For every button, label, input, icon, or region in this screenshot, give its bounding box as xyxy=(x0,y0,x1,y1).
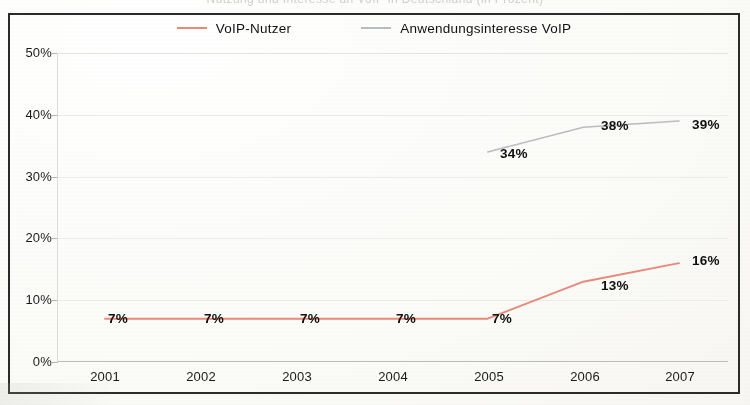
data-label-voip-2005: 7% xyxy=(492,311,512,326)
series-layer xyxy=(0,0,750,405)
chart-page: Nutzung und Interesse an VoIP in Deutsch… xyxy=(0,0,750,405)
x-axis-label-2001: 2001 xyxy=(70,369,140,384)
data-label-interest-2005: 34% xyxy=(500,146,528,161)
data-label-voip-2002: 7% xyxy=(204,311,224,326)
data-label-voip-2003: 7% xyxy=(300,311,320,326)
x-axis-label-2006: 2006 xyxy=(550,369,620,384)
data-label-voip-2001: 7% xyxy=(108,311,128,326)
x-axis-label-2003: 2003 xyxy=(262,369,332,384)
series-line-voip-nutzer xyxy=(105,263,679,319)
x-axis-label-2007: 2007 xyxy=(645,369,715,384)
data-label-interest-2007: 39% xyxy=(692,117,720,132)
data-label-voip-2004: 7% xyxy=(396,311,416,326)
data-label-interest-2006: 38% xyxy=(601,118,629,133)
data-label-voip-2006: 13% xyxy=(601,278,629,293)
x-axis-label-2005: 2005 xyxy=(454,369,524,384)
data-label-voip-2007: 16% xyxy=(692,253,720,268)
x-axis-label-2004: 2004 xyxy=(358,369,428,384)
x-axis-label-2002: 2002 xyxy=(166,369,236,384)
